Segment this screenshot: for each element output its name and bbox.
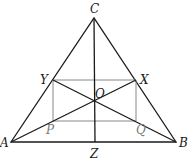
geometry-diagram: C A B Y X O P Q Z bbox=[0, 0, 196, 163]
label-z: Z bbox=[89, 147, 99, 161]
segment-by bbox=[53, 80, 176, 142]
label-o: O bbox=[95, 87, 105, 101]
label-p: P bbox=[45, 123, 55, 137]
label-x: X bbox=[139, 73, 149, 87]
label-q: Q bbox=[136, 123, 146, 137]
label-c: C bbox=[90, 2, 99, 16]
segment-ax bbox=[11, 80, 136, 142]
label-y: Y bbox=[40, 73, 49, 87]
segment-cz bbox=[94, 18, 95, 142]
label-b: B bbox=[178, 136, 188, 150]
label-a: A bbox=[0, 136, 9, 150]
